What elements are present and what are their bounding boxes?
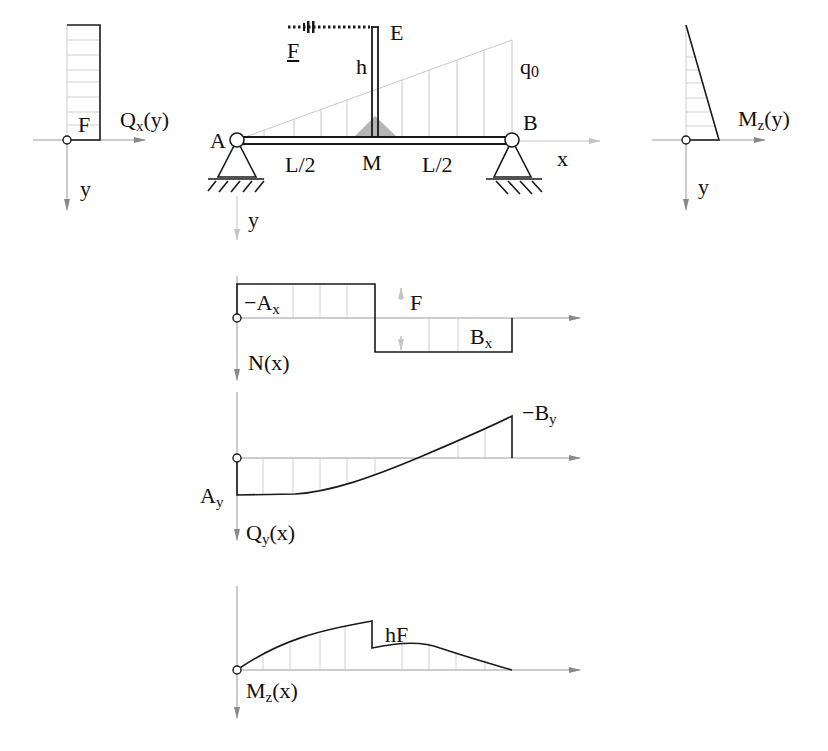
m-func-label: Mz(x) xyxy=(246,680,298,705)
point-a-label: A xyxy=(210,130,226,152)
q-left-label: Ay xyxy=(200,485,223,510)
q-func-label: Qy(x) xyxy=(246,522,295,547)
left-value-label: F xyxy=(78,114,90,136)
point-m-label: M xyxy=(362,152,382,174)
point-e-label: E xyxy=(390,22,403,44)
right-func-label: Mz(y) xyxy=(738,108,790,133)
q-right-label: −By xyxy=(522,402,557,427)
n-func-label: N(x) xyxy=(248,352,290,374)
m-jump-label: hF xyxy=(385,624,408,646)
support-b xyxy=(486,140,542,194)
gusset-plate xyxy=(354,116,397,137)
right-y-label: y xyxy=(698,176,709,198)
x-axis-label: x xyxy=(557,148,568,170)
n-right-label: Bx xyxy=(470,326,492,351)
force-f-arrow xyxy=(288,21,370,33)
point-b-label: B xyxy=(523,112,538,134)
n-left-label: −Ax xyxy=(244,292,280,317)
half-length-right-label: L/2 xyxy=(422,154,453,176)
height-h-label: h xyxy=(356,56,367,78)
left-y-label: y xyxy=(80,178,91,200)
half-length-left-label: L/2 xyxy=(285,154,316,176)
load-q0-label: q0 xyxy=(520,56,539,80)
n-jump-label: F xyxy=(410,292,422,314)
left-func-label: Qx(y) xyxy=(120,109,169,134)
force-f-label: F xyxy=(287,40,299,62)
beam-structure xyxy=(208,21,600,240)
y-axis-label: y xyxy=(248,209,259,231)
hinge-a xyxy=(230,133,244,147)
hinge-b xyxy=(505,133,519,147)
